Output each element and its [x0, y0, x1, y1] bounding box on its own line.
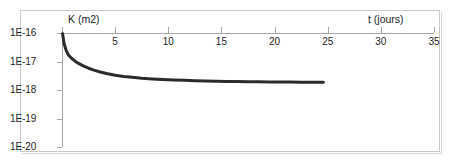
chart-figure: K (m2) t (jours) 1E-161E-171E-181E-191E-… [0, 0, 462, 166]
data-curve-layer [0, 0, 462, 166]
series-line-K [63, 34, 324, 83]
